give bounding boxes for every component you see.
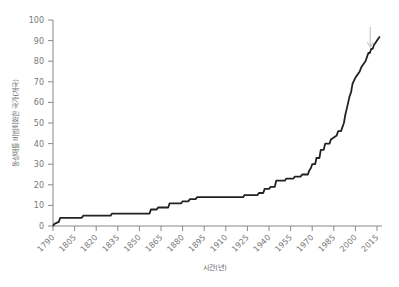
y-tick-label: 90 — [34, 37, 44, 46]
x-tick-label: 1940 — [252, 233, 273, 254]
x-tick-label: 1955 — [273, 233, 294, 254]
x-tick-label: 1970 — [295, 233, 316, 254]
x-tick-label: 1850 — [122, 233, 143, 254]
x-tick-label: 1865 — [144, 233, 165, 254]
series-line — [53, 37, 380, 227]
y-tick-label: 80 — [34, 57, 44, 66]
y-tick-label: 30 — [34, 160, 44, 169]
y-tick-label: 0 — [39, 222, 44, 231]
x-tick-label: 1925 — [230, 233, 251, 254]
x-axis: 1790180518201835185018651880189519101925… — [36, 226, 382, 254]
y-tick-label: 10 — [34, 201, 44, 210]
y-tick-label: 100 — [29, 16, 44, 25]
x-tick-label: 1835 — [100, 233, 121, 254]
arrow-annotation — [367, 27, 373, 47]
y-tick-label: 40 — [34, 140, 44, 149]
y-axis-title: 동성애를 비범죄화한 국가(개국) — [11, 79, 20, 167]
x-tick-label: 2000 — [338, 233, 359, 254]
chart: 0102030405060708090100 17901805182018351… — [0, 0, 399, 287]
x-tick-label: 2015 — [360, 233, 381, 254]
x-tick-label: 1820 — [79, 233, 100, 254]
x-tick-label: 1910 — [208, 233, 229, 254]
x-tick-label: 1880 — [165, 233, 186, 254]
y-tick-label: 70 — [34, 78, 44, 87]
y-tick-label: 20 — [34, 181, 44, 190]
x-tick-label: 1895 — [187, 233, 208, 254]
x-tick-label: 1805 — [57, 233, 78, 254]
x-tick-label: 1790 — [36, 233, 57, 254]
x-axis-title: 시간(년) — [203, 263, 227, 272]
y-axis: 0102030405060708090100 — [29, 16, 53, 231]
y-tick-label: 50 — [34, 119, 44, 128]
x-tick-label: 1985 — [316, 233, 337, 254]
y-tick-label: 60 — [34, 98, 44, 107]
